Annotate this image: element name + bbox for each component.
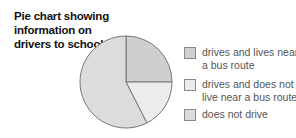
legend-label: drives and does not live near a bus rout… [202,78,296,104]
legend-label: does not drive [202,108,296,121]
legend-swatch [184,109,196,121]
pie-slice [126,36,172,82]
legend-label: drives and lives near a bus route [202,46,296,72]
pie-chart [78,34,174,130]
legend-swatch [184,47,196,59]
legend-swatch [184,79,196,91]
